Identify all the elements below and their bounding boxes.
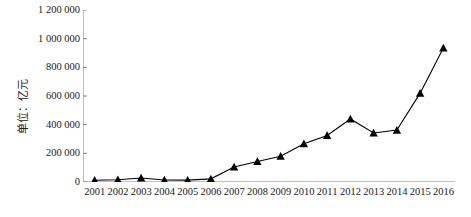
data-point-marker — [393, 126, 401, 134]
x-axis-tick-label: 2001 — [84, 186, 105, 198]
data-point-marker — [183, 176, 191, 182]
x-axis-tick-label: 2004 — [154, 186, 175, 198]
x-axis-tick-label: 2016 — [433, 186, 454, 198]
data-point-marker — [207, 175, 215, 182]
x-axis-tick-label: 2002 — [107, 186, 128, 198]
x-axis-tick-label: 2014 — [386, 186, 407, 198]
x-axis-tick-label: 2010 — [293, 186, 314, 198]
plot-area — [83, 10, 455, 182]
data-point-marker — [276, 152, 284, 160]
x-axis-tick-labels: 2001200220032004200520062007200820092010… — [83, 186, 455, 206]
data-point-marker — [160, 176, 168, 182]
y-axis-tick-label: 1 000 000 — [22, 34, 80, 44]
y-axis-tick-labels: 0200 000400 000600 000800 0001 000 0001 … — [22, 0, 80, 190]
data-point-marker — [416, 89, 424, 97]
x-axis-tick-label: 2011 — [317, 186, 338, 198]
x-axis-tick-label: 2015 — [410, 186, 431, 198]
y-axis-tick-label: 400 000 — [22, 120, 80, 130]
data-point-marker — [114, 176, 122, 182]
data-point-marker — [323, 131, 331, 139]
x-axis-tick-label: 2009 — [270, 186, 291, 198]
y-axis-tick-label: 1 200 000 — [22, 5, 80, 15]
data-point-marker — [300, 140, 308, 148]
y-axis-tick-label: 200 000 — [22, 148, 80, 158]
chart-svg — [83, 10, 455, 182]
data-point-marker — [439, 44, 447, 52]
axes-group — [83, 10, 455, 182]
series-line — [95, 48, 444, 180]
data-point-marker — [90, 176, 98, 182]
x-axis-tick-label: 2008 — [247, 186, 268, 198]
line-chart: 单位：亿元 0200 000400 000600 000800 0001 000… — [0, 0, 471, 217]
x-axis-tick-label: 2005 — [177, 186, 198, 198]
x-axis-tick-label: 2007 — [224, 186, 245, 198]
y-axis-tick-label: 800 000 — [22, 62, 80, 72]
x-axis-tick-label: 2013 — [363, 186, 384, 198]
y-axis-tick-label: 600 000 — [22, 91, 80, 101]
x-axis-tick-label: 2006 — [200, 186, 221, 198]
x-axis-tick-label: 2012 — [340, 186, 361, 198]
x-axis-tick-label: 2003 — [131, 186, 152, 198]
y-axis-tick-label: 0 — [22, 177, 80, 187]
data-series-group — [90, 44, 447, 182]
data-point-marker — [346, 115, 354, 123]
